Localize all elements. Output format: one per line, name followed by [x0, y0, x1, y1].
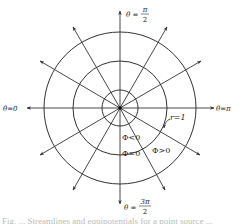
- ray-30deg: [120, 61, 201, 108]
- figure-caption: Fig. ... Streamlines and equipotentials …: [2, 216, 241, 224]
- label-phi-zero: Φ=0: [122, 149, 140, 158]
- svg-text:2: 2: [143, 208, 147, 216]
- label-phi-positive: Φ>0: [152, 146, 170, 155]
- ray-120deg: [73, 27, 120, 108]
- label-theta-zero: θ=0: [3, 105, 18, 113]
- svg-text:π: π: [142, 6, 148, 14]
- ray-240deg: [73, 108, 120, 190]
- label-phi-negative: Φ<0: [122, 133, 140, 142]
- ray-150deg: [40, 61, 120, 108]
- ray-60deg: [120, 27, 167, 108]
- label-top: θ = π 2: [126, 6, 149, 24]
- svg-text:2: 2: [143, 16, 147, 24]
- label-bottom: θ = 3π 2: [124, 198, 151, 216]
- svg-text:3π: 3π: [140, 198, 149, 206]
- polar-flow-diagram: θ = π 2 θ = 3π 2 θ=0 θ=π r=1 Φ<0 Φ=0 Φ>0: [0, 0, 241, 224]
- svg-text:θ =: θ =: [126, 11, 138, 19]
- label-theta-pi: θ=π: [216, 105, 231, 113]
- svg-text:θ =: θ =: [124, 204, 136, 212]
- ray-210deg: [40, 108, 120, 155]
- label-r-equals-1: r=1: [170, 113, 186, 122]
- source-point: [118, 106, 122, 110]
